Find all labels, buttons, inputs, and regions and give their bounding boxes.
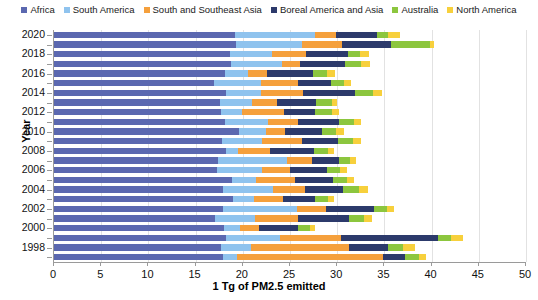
bar-segment[interactable]	[300, 61, 344, 67]
bar-segment[interactable]	[353, 138, 361, 144]
bar-segment[interactable]	[214, 80, 261, 86]
bar-segment[interactable]	[233, 196, 254, 202]
bar-segment[interactable]	[54, 99, 220, 105]
bar-segment[interactable]	[349, 215, 363, 221]
bar-segment[interactable]	[374, 206, 387, 212]
bar-segment[interactable]	[388, 244, 403, 250]
bar-segment[interactable]	[302, 41, 342, 47]
bar-segment[interactable]	[259, 225, 299, 231]
bar-segment[interactable]	[215, 215, 255, 221]
bar-segment[interactable]	[361, 61, 370, 67]
bar-row[interactable]	[54, 196, 334, 202]
bar-segment[interactable]	[287, 157, 312, 163]
bar-segment[interactable]	[223, 186, 273, 192]
bar-segment[interactable]	[54, 148, 226, 154]
bar-segment[interactable]	[302, 138, 338, 144]
bar-segment[interactable]	[388, 32, 400, 38]
bar-segment[interactable]	[262, 138, 303, 144]
bar-segment[interactable]	[359, 186, 368, 192]
bar-segment[interactable]	[54, 177, 232, 183]
bar-segment[interactable]	[312, 157, 339, 163]
bar-segment[interactable]	[350, 157, 356, 163]
bar-segment[interactable]	[54, 167, 217, 173]
bar-segment[interactable]	[54, 244, 221, 250]
bar-segment[interactable]	[331, 80, 344, 86]
bar-segment[interactable]	[360, 51, 369, 57]
bar-segment[interactable]	[339, 119, 354, 125]
bar-segment[interactable]	[54, 157, 218, 163]
bar-segment[interactable]	[222, 138, 262, 144]
legend-item-boreal-america-and-asia[interactable]: Boreal America and Asia	[271, 5, 384, 15]
bar-segment[interactable]	[387, 206, 394, 212]
bar-segment[interactable]	[54, 225, 224, 231]
bar-segment[interactable]	[236, 41, 302, 47]
bar-row[interactable]	[54, 138, 361, 144]
bar-segment[interactable]	[326, 206, 374, 212]
bar-segment[interactable]	[438, 235, 451, 241]
bar-segment[interactable]	[336, 32, 377, 38]
bar-segment[interactable]	[256, 177, 295, 183]
bar-segment[interactable]	[322, 128, 336, 134]
bar-segment[interactable]	[54, 51, 230, 57]
bar-segment[interactable]	[298, 119, 340, 125]
bar-segment[interactable]	[248, 70, 267, 76]
bar-row[interactable]	[54, 235, 463, 241]
bar-segment[interactable]	[342, 41, 391, 47]
bar-segment[interactable]	[298, 215, 350, 221]
bar-segment[interactable]	[313, 70, 327, 76]
bar-segment[interactable]	[54, 32, 235, 38]
bar-segment[interactable]	[272, 51, 306, 57]
bar-segment[interactable]	[306, 51, 348, 57]
bar-segment[interactable]	[347, 177, 355, 183]
bar-segment[interactable]	[54, 186, 223, 192]
bar-segment[interactable]	[254, 196, 283, 202]
bar-segment[interactable]	[310, 225, 316, 231]
bar-segment[interactable]	[235, 32, 315, 38]
bar-segment[interactable]	[282, 61, 301, 67]
legend-item-north-america[interactable]: North America	[447, 5, 516, 15]
bar-segment[interactable]	[315, 109, 331, 115]
bar-segment[interactable]	[54, 215, 215, 221]
bar-segment[interactable]	[285, 128, 322, 134]
bar-segment[interactable]	[327, 167, 340, 173]
bar-segment[interactable]	[403, 244, 414, 250]
bar-segment[interactable]	[221, 109, 242, 115]
bar-segment[interactable]	[340, 167, 347, 173]
bar-segment[interactable]	[373, 90, 382, 96]
bar-segment[interactable]	[298, 80, 330, 86]
bar-segment[interactable]	[354, 119, 361, 125]
bar-segment[interactable]	[348, 51, 360, 57]
bar-segment[interactable]	[226, 148, 238, 154]
bar-segment[interactable]	[316, 99, 331, 105]
bar-row[interactable]	[54, 244, 415, 250]
bar-segment[interactable]	[297, 206, 326, 212]
bar-segment[interactable]	[355, 90, 373, 96]
bar-segment[interactable]	[54, 90, 226, 96]
bar-segment[interactable]	[232, 177, 256, 183]
bar-segment[interactable]	[251, 244, 348, 250]
bar-segment[interactable]	[238, 148, 270, 154]
bar-segment[interactable]	[255, 215, 297, 221]
bar-segment[interactable]	[383, 254, 406, 260]
bar-row[interactable]	[54, 157, 356, 163]
bar-segment[interactable]	[237, 254, 382, 260]
bar-row[interactable]	[54, 148, 334, 154]
bar-segment[interactable]	[280, 235, 341, 241]
bar-segment[interactable]	[290, 167, 327, 173]
bar-row[interactable]	[54, 206, 394, 212]
bar-segment[interactable]	[54, 109, 221, 115]
bar-segment[interactable]	[242, 109, 284, 115]
bar-segment[interactable]	[344, 80, 352, 86]
bar-segment[interactable]	[377, 32, 388, 38]
legend-item-south-america[interactable]: South America	[64, 5, 135, 15]
bar-segment[interactable]	[336, 128, 344, 134]
bar-row[interactable]	[54, 51, 369, 57]
bar-segment[interactable]	[295, 177, 334, 183]
bar-segment[interactable]	[54, 206, 223, 212]
bar-row[interactable]	[54, 177, 354, 183]
bar-segment[interactable]	[333, 177, 346, 183]
bar-segment[interactable]	[332, 109, 340, 115]
bar-segment[interactable]	[268, 119, 297, 125]
bar-segment[interactable]	[338, 138, 353, 144]
bar-segment[interactable]	[225, 119, 268, 125]
